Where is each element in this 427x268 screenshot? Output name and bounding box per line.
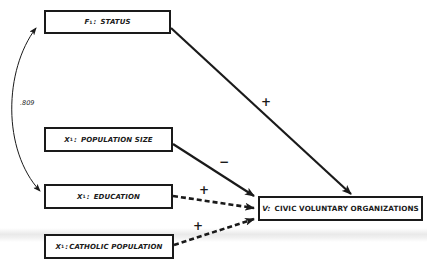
node-target-var: V: [262,204,270,213]
node-catholic-population-separator: : [65,243,68,251]
node-education: X1:EDUCATION [44,184,173,209]
edge-sign-catholic: + [193,220,203,232]
node-population-size-label: POPULATION SIZE [81,136,153,144]
correlation-arrow [12,28,40,191]
node-catholic-population-label: CATHOLIC POPULATION [69,243,162,251]
node-status-separator: : [94,18,97,26]
edge-catholic-to-target [174,219,254,245]
node-catholic-population: X1:CATHOLIC POPULATION [44,234,174,259]
edge-population-size-to-target [173,144,254,196]
node-status-subscript: 1 [89,20,92,25]
edge-sign-population-size: − [219,156,229,168]
node-education-label: EDUCATION [94,193,140,201]
edge-education-to-target [173,196,254,208]
node-population-size: X1:POPULATION SIZE [44,127,173,152]
node-status-label: STATUS [100,18,130,26]
node-population-size-subscript: 1 [70,137,73,142]
node-education-separator: : [87,193,90,201]
node-civic-voluntary-organizations: V:CIVIC VOLUNTARY ORGANIZATIONS [258,196,423,221]
correlation-value: .809 [20,99,34,107]
node-catholic-population-subscript: 1 [61,244,64,249]
edge-status-to-target [171,28,351,194]
node-status: F1:STATUS [44,10,171,34]
node-education-subscript: 1 [83,194,86,199]
edge-sign-education: + [199,184,209,196]
node-population-size-separator: : [74,136,77,144]
edge-sign-status: + [261,96,271,108]
node-target-label: CIVIC VOLUNTARY ORGANIZATIONS [275,204,419,213]
